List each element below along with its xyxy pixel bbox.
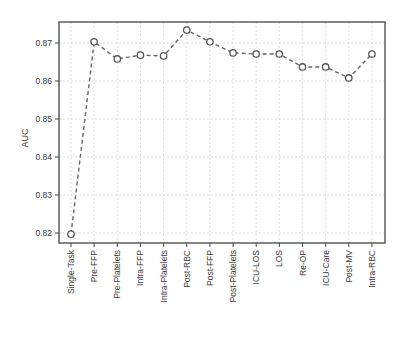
grid (59, 22, 385, 243)
x-tick-label: Intra-Platelets (159, 250, 169, 302)
data-point-marker (322, 64, 328, 70)
data-point-marker (299, 64, 305, 70)
x-tick-label: Pre-FFP (89, 250, 99, 282)
x-tick-label: Post-RBC (182, 250, 192, 288)
data-point-marker (160, 53, 166, 59)
x-tick-label: Single-Task (66, 249, 76, 294)
auc-line-chart: 0.820.830.840.850.860.87 Single-TaskPre-… (0, 0, 409, 337)
data-point-marker (207, 39, 213, 45)
x-tick-label: Re-OP (298, 250, 308, 276)
data-point-marker (137, 52, 143, 58)
y-tick-label: 0.86 (35, 76, 52, 86)
data-point-marker (184, 27, 190, 33)
data-point-marker (253, 51, 259, 57)
data-series (68, 27, 375, 237)
y-tick-label: 0.84 (35, 152, 52, 162)
y-tick-label: 0.85 (35, 114, 52, 124)
x-tick-label: Post-Platelets (228, 250, 238, 302)
x-tick-label: ICU-Care (321, 250, 331, 286)
x-tick-label: Post-FFP (205, 250, 215, 286)
x-tick-label: Intra-RBC (367, 250, 377, 288)
data-point-marker (114, 56, 120, 62)
y-axis: 0.820.830.840.850.860.87 (35, 38, 59, 238)
plot-frame (59, 22, 385, 243)
x-tick-label: Pre-Platelets (112, 250, 122, 299)
x-tick-label: ICU-LOS (251, 250, 261, 285)
y-axis-label: AUC (20, 128, 30, 148)
data-point-marker (230, 50, 236, 56)
x-tick-label: Post-MV (344, 250, 354, 283)
y-tick-label: 0.83 (35, 190, 52, 200)
x-tick-label: LOS (274, 250, 284, 267)
x-tick-label: Intra-FFP (135, 250, 145, 286)
data-point-marker (91, 39, 97, 45)
data-point-marker (346, 75, 352, 81)
x-axis: Single-TaskPre-FFPPre-PlateletsIntra-FFP… (66, 243, 377, 302)
data-point-marker (276, 51, 282, 57)
y-tick-label: 0.82 (35, 228, 52, 238)
y-tick-label: 0.87 (35, 38, 52, 48)
data-point-marker (369, 51, 375, 57)
data-point-marker (68, 231, 74, 237)
